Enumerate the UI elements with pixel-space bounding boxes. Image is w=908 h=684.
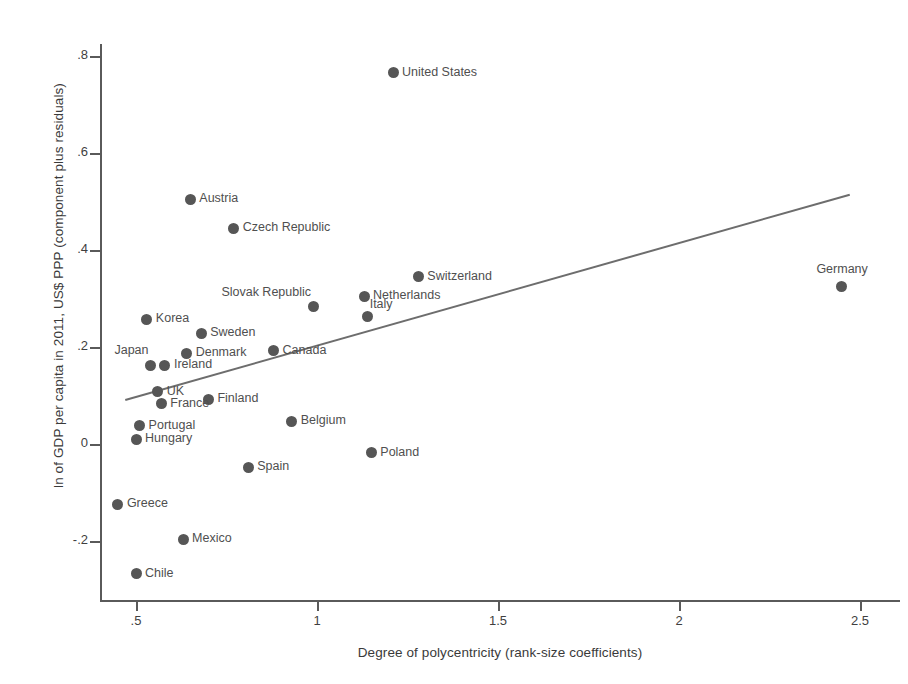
data-point: [243, 462, 254, 473]
data-point: [388, 67, 399, 78]
data-point-label: Chile: [145, 566, 174, 580]
data-point: [286, 416, 297, 427]
data-point: [145, 360, 156, 371]
data-point-label: Korea: [156, 311, 189, 325]
data-point-label: Ireland: [174, 357, 212, 371]
data-point: [836, 281, 847, 292]
data-point-label: Portugal: [149, 418, 196, 432]
data-point-label: Canada: [283, 343, 327, 357]
data-point: [362, 311, 373, 322]
data-point-label: Poland: [380, 445, 419, 459]
data-point: [359, 291, 370, 302]
data-point: [228, 223, 239, 234]
data-point: [131, 434, 142, 445]
data-point: [156, 398, 167, 409]
data-point-label: Sweden: [210, 325, 255, 339]
data-point-label: United States: [402, 65, 477, 79]
data-point-label: Belgium: [301, 413, 346, 427]
data-point: [413, 271, 424, 282]
data-point-label: Germany: [816, 262, 867, 276]
data-point: [141, 314, 152, 325]
data-point-label: Finland: [217, 391, 258, 405]
data-point: [178, 534, 189, 545]
data-point-label: Italy: [370, 297, 393, 311]
data-point-label: Austria: [199, 191, 238, 205]
data-point: [112, 499, 123, 510]
data-point-label: Czech Republic: [243, 220, 331, 234]
data-point-label: Slovak Republic: [221, 285, 311, 299]
data-point: [131, 568, 142, 579]
data-point: [196, 328, 207, 339]
data-point-label: Hungary: [145, 431, 192, 445]
data-point: [308, 301, 319, 312]
data-point-label: Mexico: [192, 531, 232, 545]
data-point-label: Japan: [114, 343, 148, 357]
data-point: [185, 194, 196, 205]
data-point: [134, 420, 145, 431]
scatter-chart: ln of GDP per capita in 2011, US$ PPP (c…: [0, 0, 908, 684]
data-point-label: Spain: [257, 459, 289, 473]
data-point-label: France: [170, 396, 209, 410]
data-point: [366, 447, 377, 458]
data-point: [152, 386, 163, 397]
data-point-label: Greece: [127, 496, 168, 510]
data-point: [159, 360, 170, 371]
data-point-label: Switzerland: [427, 269, 492, 283]
plot-area: United StatesAustriaCzech RepublicSwitze…: [0, 0, 908, 684]
